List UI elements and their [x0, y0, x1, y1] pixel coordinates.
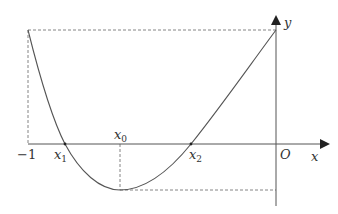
x2-label: x2	[189, 147, 202, 164]
y-axis-label: y	[283, 15, 292, 30]
x1-label: x1	[54, 147, 67, 164]
neg-one-label: −1	[17, 147, 36, 162]
origin-label: O	[280, 147, 291, 162]
x0-label: x0	[114, 127, 127, 144]
function-curve	[28, 30, 276, 190]
x-axis-label: x	[311, 149, 319, 164]
x2-point	[190, 143, 193, 146]
x1-point	[64, 143, 67, 146]
function-graph: y x O −1 x1 x0 x2	[0, 0, 338, 214]
guide-lines	[28, 30, 276, 190]
